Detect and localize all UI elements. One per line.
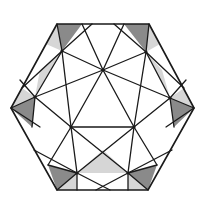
facet-edge — [71, 70, 103, 127]
facet-edge — [62, 51, 103, 70]
vertex-node — [101, 68, 104, 71]
hexagon-facet-diagram — [0, 0, 206, 216]
vertex-node — [69, 125, 72, 128]
dark-facet — [124, 24, 149, 52]
facet-edge — [77, 173, 110, 190]
vertex-node — [132, 125, 135, 128]
facet-edge — [146, 52, 170, 98]
light-shaded-regions — [11, 24, 194, 190]
vertex-node — [168, 96, 171, 99]
vertex-node — [60, 49, 63, 52]
facet-edge — [35, 97, 71, 127]
vertex-node — [126, 171, 129, 174]
facet-edge — [62, 51, 71, 127]
facet-edge — [96, 173, 128, 190]
facet-edge — [134, 52, 146, 127]
facet-edge — [103, 70, 134, 127]
vertex-node — [75, 171, 78, 174]
light-facet — [77, 150, 128, 173]
vertex-node — [33, 95, 36, 98]
facet-edge — [71, 127, 77, 173]
vertex-node — [144, 50, 147, 53]
facet-edge — [134, 98, 170, 127]
facet-edge — [128, 127, 134, 173]
